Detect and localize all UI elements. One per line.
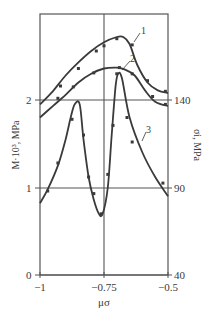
data-point: [77, 67, 80, 70]
data-point: [106, 173, 109, 176]
data-point: [56, 97, 59, 100]
data-point: [92, 71, 95, 74]
data-point: [146, 79, 149, 82]
data-point: [164, 103, 167, 106]
x-tick-label-neg05: −0.5: [158, 281, 178, 293]
x-tick-label-neg1: −1: [34, 281, 46, 293]
x-tick-label-neg075: −0.75: [91, 281, 117, 293]
data-point: [126, 116, 129, 119]
curve2-label: 2: [130, 53, 135, 64]
data-point: [46, 190, 49, 193]
data-point: [72, 85, 75, 88]
y-left-tick-2: 2: [26, 94, 32, 106]
data-point: [164, 90, 167, 93]
line-chart: 1 2 3 0 1 2 40 90 140 −1 −0.75 −0.5 μσ M…: [0, 0, 208, 322]
data-point: [151, 95, 154, 98]
data-point: [112, 124, 115, 127]
data-point: [115, 72, 118, 75]
data-point: [161, 182, 164, 185]
curve2-leader: [122, 61, 130, 70]
y-right-tick-140: 140: [174, 94, 191, 106]
data-point: [87, 176, 90, 179]
y-right-axis-title: σi, MPa: [192, 129, 203, 162]
y-right-tick-90: 90: [174, 182, 186, 194]
y-right-tick-40: 40: [174, 269, 186, 281]
data-point: [95, 50, 98, 53]
curve3-label: 3: [146, 124, 151, 135]
data-point: [115, 37, 118, 40]
data-point: [100, 212, 103, 215]
data-point: [71, 118, 74, 121]
x-axis-title: μσ: [98, 296, 110, 308]
data-point: [92, 192, 95, 195]
data-point: [131, 43, 134, 46]
curve1-label: 1: [141, 25, 146, 36]
curve1-leader: [134, 33, 140, 42]
data-point: [131, 141, 134, 144]
data-point: [103, 44, 106, 47]
y-left-axis-title: M·10³, MPa: [10, 120, 21, 170]
data-point: [56, 162, 59, 165]
data-point: [131, 72, 134, 75]
data-point: [118, 66, 121, 69]
y-left-tick-0: 0: [26, 269, 32, 281]
y-left-tick-1: 1: [26, 182, 32, 194]
data-point: [82, 134, 85, 137]
data-point: [59, 85, 62, 88]
